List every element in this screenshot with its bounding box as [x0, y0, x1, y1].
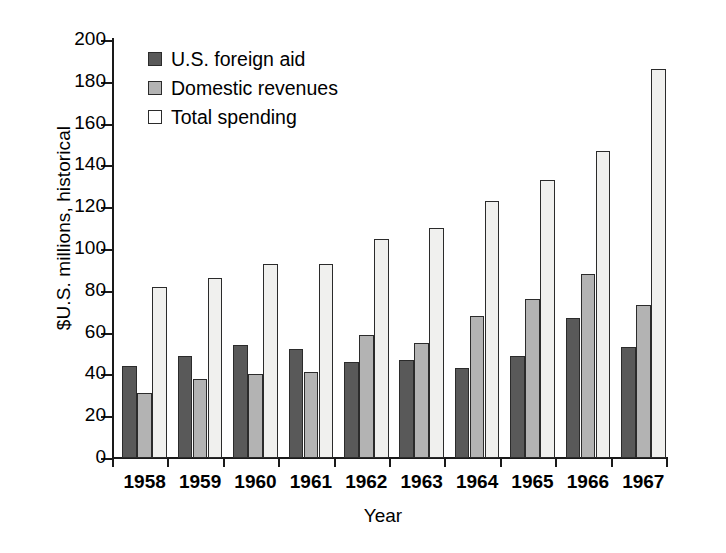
bar	[137, 393, 152, 458]
y-axis-tick-label: 40	[46, 363, 106, 383]
bar-group	[621, 40, 666, 458]
bar	[319, 264, 334, 458]
bar	[510, 356, 525, 458]
y-axis-tick-label: 140	[46, 154, 106, 174]
x-axis-tick-mark	[500, 459, 502, 467]
y-axis-tick-label: 20	[46, 405, 106, 425]
bar	[193, 379, 208, 458]
bar	[344, 362, 359, 458]
bar-group	[566, 40, 611, 458]
legend-item: U.S. foreign aid	[148, 48, 338, 70]
x-axis-tick-mark	[611, 459, 613, 467]
legend: U.S. foreign aidDomestic revenuesTotal s…	[148, 48, 338, 128]
legend-label: Total spending	[171, 106, 297, 128]
bar-chart: $U.S. millions, historical 0204060801001…	[0, 0, 726, 553]
bar	[651, 69, 666, 458]
x-axis-tick-mark	[666, 459, 668, 467]
bar	[429, 228, 444, 458]
x-axis-tick-mark	[278, 459, 280, 467]
bar	[152, 287, 167, 458]
bar	[208, 278, 223, 458]
bar	[566, 318, 581, 458]
bar	[470, 316, 485, 458]
x-axis-tick-label: 1964	[456, 471, 498, 493]
bar	[399, 360, 414, 458]
y-axis-tick-label: 120	[46, 196, 106, 216]
bar	[248, 374, 263, 458]
x-axis-title: Year	[100, 505, 666, 527]
y-axis-tick-label: 60	[46, 322, 106, 342]
bar	[485, 201, 500, 458]
x-axis-tick-mark	[112, 459, 114, 467]
y-axis-tick-label: 100	[46, 238, 106, 258]
x-axis-tick-mark	[555, 459, 557, 467]
x-axis-tick-mark	[334, 459, 336, 467]
bar-group	[344, 40, 389, 458]
legend-item: Total spending	[148, 106, 338, 128]
y-axis-tick-label: 160	[46, 113, 106, 133]
x-axis-tick-label: 1966	[567, 471, 609, 493]
bar	[414, 343, 429, 458]
bar-group	[399, 40, 444, 458]
x-axis-ticks: 1958195919601961196219631964196519661967	[112, 459, 668, 499]
legend-swatch-icon	[148, 110, 162, 124]
legend-label: U.S. foreign aid	[171, 48, 305, 70]
x-axis-tick-mark	[444, 459, 446, 467]
legend-swatch-icon	[148, 81, 162, 95]
legend-swatch-icon	[148, 52, 162, 66]
x-axis-tick-label: 1963	[401, 471, 443, 493]
x-axis-tick-label: 1958	[124, 471, 166, 493]
bar	[233, 345, 248, 458]
bar	[596, 151, 611, 458]
bar	[455, 368, 470, 458]
legend-item: Domestic revenues	[148, 77, 338, 99]
bar	[374, 239, 389, 458]
bar	[263, 264, 278, 458]
bar-group	[455, 40, 500, 458]
x-axis-tick-mark	[223, 459, 225, 467]
x-axis-tick-label: 1959	[179, 471, 221, 493]
y-axis-tick-label: 200	[46, 29, 106, 49]
x-axis-tick-label: 1965	[511, 471, 553, 493]
bar	[178, 356, 193, 458]
x-axis-tick-label: 1960	[234, 471, 276, 493]
bar	[636, 305, 651, 458]
y-axis-tick-label: 0	[46, 447, 106, 467]
x-axis-tick-label: 1967	[622, 471, 664, 493]
bar	[304, 372, 319, 458]
bar	[621, 347, 636, 458]
x-axis-tick-label: 1962	[345, 471, 387, 493]
bar	[122, 366, 137, 458]
x-axis-tick-label: 1961	[290, 471, 332, 493]
y-axis-tick-label: 180	[46, 71, 106, 91]
x-axis-tick-mark	[167, 459, 169, 467]
bar	[525, 299, 540, 458]
legend-label: Domestic revenues	[171, 77, 338, 99]
y-axis-tick-label: 80	[46, 280, 106, 300]
bar	[359, 335, 374, 458]
bar	[540, 180, 555, 458]
bar	[581, 274, 596, 458]
x-axis-tick-mark	[389, 459, 391, 467]
bar	[289, 349, 304, 458]
bar-group	[510, 40, 555, 458]
